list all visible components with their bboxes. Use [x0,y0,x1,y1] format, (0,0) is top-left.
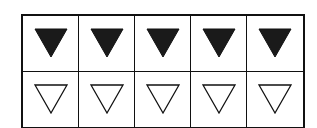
grid-cell [23,72,79,128]
grid-cell [191,16,247,72]
triangle-grid [21,14,305,128]
grid-cell [79,16,135,72]
outline-down-triangle-icon [257,83,293,115]
filled-down-triangle-icon [89,27,125,59]
filled-down-triangle-icon [33,27,69,59]
outline-down-triangle-icon [201,83,237,115]
grid-cell [79,72,135,128]
outline-down-triangle-icon [145,83,181,115]
grid-cell [247,72,303,128]
grid-cell [135,72,191,128]
grid-cell [247,16,303,72]
outline-down-triangle-icon [89,83,125,115]
grid-cell [135,16,191,72]
grid-cell [191,72,247,128]
filled-down-triangle-icon [201,27,237,59]
grid-cell [23,16,79,72]
filled-down-triangle-icon [257,27,293,59]
outline-down-triangle-icon [33,83,69,115]
filled-down-triangle-icon [145,27,181,59]
